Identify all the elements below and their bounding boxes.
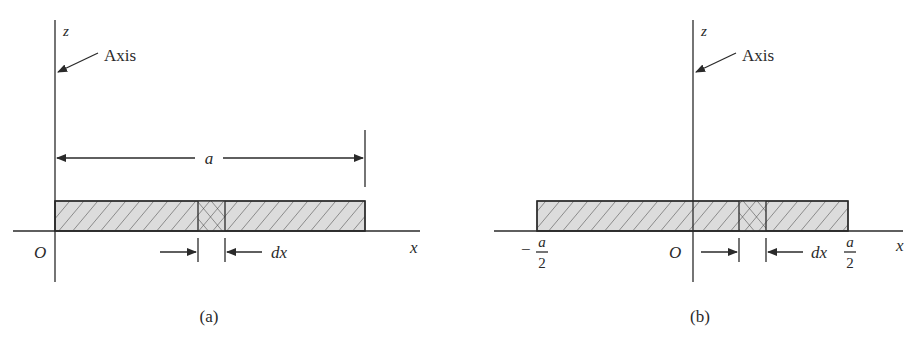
rod-moment-of-inertia-figure: Axis z a dx O x (a) (0, 0, 923, 341)
left-end-label: − a 2 (521, 234, 548, 271)
rod-bar (55, 201, 365, 231)
axis-callout-arrow-icon (696, 53, 736, 72)
axis-callout-label: Axis (104, 46, 136, 65)
z-axis-label: z (700, 23, 707, 39)
dx-label: dx (811, 243, 828, 262)
z-axis-label: z (62, 23, 69, 39)
caption-b: (b) (690, 307, 710, 326)
left-end-numerator: a (538, 234, 546, 250)
panel-b: Axis z dx − a 2 a 2 O x (b) (494, 20, 904, 326)
right-end-numerator: a (846, 234, 854, 250)
origin-label: O (669, 243, 681, 262)
axis-callout-arrow-icon (58, 53, 98, 72)
origin-label: O (34, 243, 46, 262)
caption-a: (a) (200, 307, 219, 326)
x-axis-label: x (895, 236, 904, 255)
minus-sign: − (521, 240, 531, 259)
right-end-denominator: 2 (846, 255, 854, 271)
x-axis-label: x (409, 238, 418, 257)
dx-label: dx (271, 243, 288, 262)
length-label: a (205, 149, 214, 168)
right-end-label: a 2 (844, 234, 856, 271)
left-end-denominator: 2 (538, 255, 546, 271)
axis-callout-label: Axis (742, 46, 774, 65)
panel-a: Axis z a dx O x (a) (13, 20, 420, 326)
